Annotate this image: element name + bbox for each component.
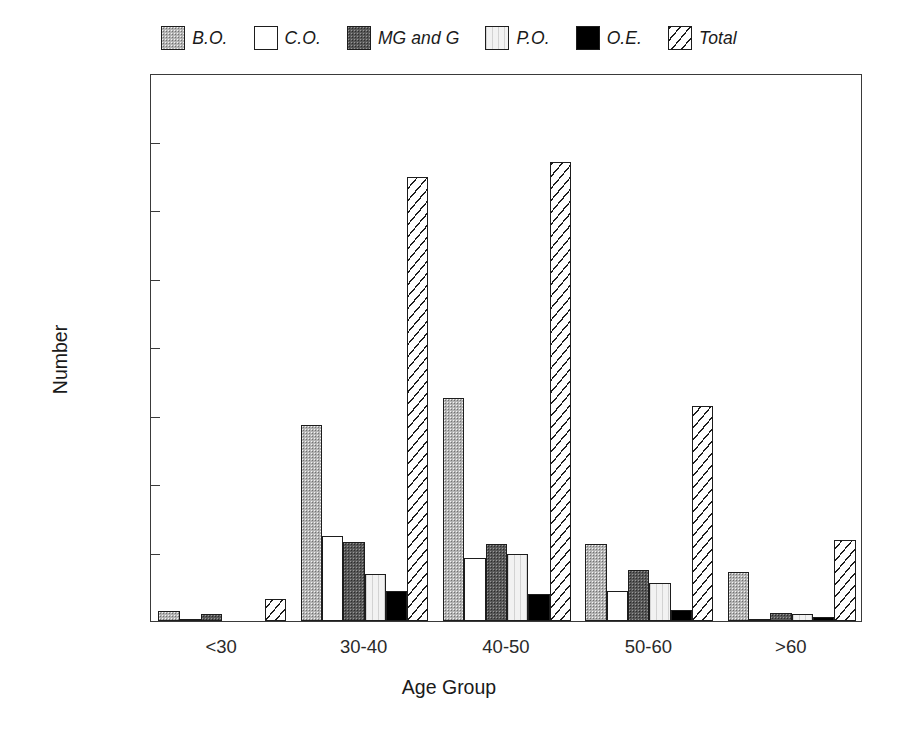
bar [607,591,628,621]
bar-group [151,75,293,621]
y-tick-mark [150,348,160,349]
bar [649,583,670,621]
legend-label: B.O. [192,28,227,49]
legend-swatch-icon [254,26,278,50]
bar [692,406,713,621]
x-tick-label: <30 [150,636,292,658]
legend-item: O.E. [576,26,642,50]
bar [585,544,606,621]
x-tick-label: 50-60 [577,636,719,658]
bar [834,540,855,621]
bar [464,558,485,621]
x-axis-title: Age Group [0,676,898,699]
bar [365,574,386,621]
chart-figure: B.O.C.O.MG and GP.O.O.E.Total 0501001502… [0,0,898,731]
plot-area [150,74,862,622]
legend-label: C.O. [285,28,321,49]
legend-label: Total [699,28,737,49]
bar [486,544,507,621]
bar [792,614,813,621]
bar-group [293,75,435,621]
bar [728,572,749,621]
bar [813,617,834,621]
bar [550,162,571,621]
y-axis-title: Number [49,260,72,460]
bar [158,611,179,621]
legend-item: C.O. [254,26,321,50]
chart-legend: B.O.C.O.MG and GP.O.O.E.Total [0,26,898,50]
legend-swatch-icon [347,26,371,50]
bar [507,554,528,621]
bar-layer [151,75,861,621]
x-tick-label: 30-40 [292,636,434,658]
legend-swatch-icon [576,26,600,50]
bar-group [721,75,863,621]
legend-label: MG and G [378,28,460,49]
y-tick-mark [150,74,160,75]
legend-swatch-icon [485,26,509,50]
legend-swatch-icon [161,26,185,50]
y-tick-mark [150,417,160,418]
bar [301,425,322,621]
bar [201,614,222,621]
y-tick-mark [150,485,160,486]
x-tick-label: 40-50 [435,636,577,658]
bar [407,177,428,621]
bar-group [578,75,720,621]
bar [628,570,649,621]
y-tick-mark [150,554,160,555]
y-tick-mark [150,211,160,212]
bar [343,542,364,621]
bar [322,536,343,621]
x-tick-label: >60 [720,636,862,658]
bar [386,591,407,621]
legend-label: P.O. [516,28,549,49]
bar [180,619,201,621]
bar [443,398,464,621]
legend-swatch-icon [668,26,692,50]
bar [671,610,692,621]
bar [528,594,549,621]
bar [770,613,791,621]
legend-item: MG and G [347,26,460,50]
legend-item: Total [668,26,737,50]
legend-item: B.O. [161,26,227,50]
bar-group [436,75,578,621]
y-tick-mark [150,143,160,144]
legend-item: P.O. [485,26,549,50]
legend-label: O.E. [607,28,642,49]
y-tick-mark [150,280,160,281]
bar [749,619,770,621]
bar [265,599,286,621]
